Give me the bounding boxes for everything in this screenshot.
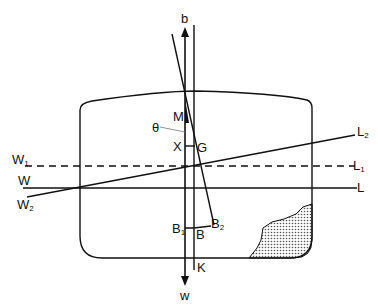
label-b1: B1 (172, 222, 185, 237)
label-w2: W2 (17, 198, 34, 213)
diagram-graphics (0, 0, 378, 306)
label-l1: L1 (353, 159, 365, 174)
label-k: K (197, 261, 206, 274)
label-b-buoyancy: B (196, 228, 205, 241)
ship-stability-diagram: b w M θ X G W1 L1 W L W2 L2 B1 B B2 K (0, 0, 378, 306)
label-l2: L2 (357, 125, 369, 140)
label-w1: W1 (12, 153, 29, 168)
label-w: w (180, 289, 189, 302)
label-m: M (173, 110, 184, 123)
label-b2: B2 (211, 217, 224, 232)
label-l: L (357, 181, 364, 194)
label-b: b (181, 12, 188, 25)
arrow-up-b-icon (181, 27, 189, 37)
label-g: G (197, 141, 207, 154)
label-theta: θ (152, 121, 159, 134)
theta-pointer (160, 127, 185, 132)
label-x: X (173, 140, 182, 153)
arrow-down-w-icon (181, 276, 189, 286)
shifted-cargo (249, 204, 312, 258)
label-w: W (18, 174, 30, 187)
inclined-vertical-line (172, 34, 214, 225)
